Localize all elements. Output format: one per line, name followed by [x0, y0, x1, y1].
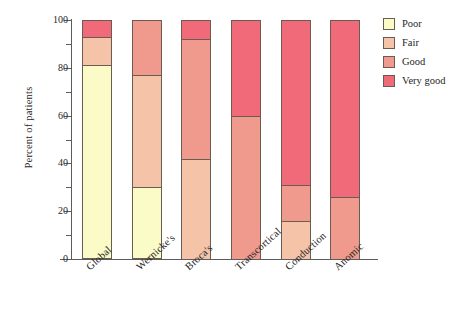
bar-group: [330, 20, 360, 259]
legend-item: Poor: [383, 18, 445, 30]
bar-stack: [281, 20, 311, 259]
legend-label: Fair: [402, 38, 419, 49]
bar-segment-good: [132, 20, 162, 75]
y-tick-label: 80: [28, 63, 68, 73]
y-tick-label: 20: [28, 206, 68, 216]
bar-segment-good: [281, 185, 311, 221]
plot-area: [72, 20, 370, 259]
bar-stack: [132, 20, 162, 259]
legend-label: Good: [402, 57, 425, 68]
bar-segment-very-good: [330, 20, 360, 197]
y-tick-label: 60: [28, 111, 68, 121]
bar-series-container: [72, 20, 370, 259]
legend-label: Poor: [402, 19, 422, 30]
legend-swatch-icon: [383, 56, 395, 68]
bar-segment-very-good: [82, 20, 112, 37]
legend-item: Very good: [383, 75, 445, 87]
bar-segment-very-good: [181, 20, 211, 39]
y-tick-label: 40: [28, 158, 68, 168]
bar-segment-very-good: [281, 20, 311, 185]
chart-legend: PoorFairGoodVery good: [383, 18, 445, 87]
y-tick-label: 0: [28, 254, 68, 264]
legend-swatch-icon: [383, 18, 395, 30]
legend-item: Fair: [383, 37, 445, 49]
legend-label: Very good: [402, 76, 445, 87]
bar-group: [281, 20, 311, 259]
legend-swatch-icon: [383, 75, 395, 87]
x-axis-line: [60, 259, 378, 260]
bar-segment-good: [181, 39, 211, 159]
bar-group: [82, 20, 112, 259]
bar-segment-fair: [82, 37, 112, 66]
bar-segment-good: [231, 116, 261, 259]
bar-segment-very-good: [231, 20, 261, 116]
bar-stack: [82, 20, 112, 259]
legend-swatch-icon: [383, 37, 395, 49]
bar-stack: [330, 20, 360, 259]
bar-group: [132, 20, 162, 259]
legend-item: Good: [383, 56, 445, 68]
y-tick-label: 100: [28, 15, 68, 25]
bar-stack: [181, 20, 211, 259]
bar-segment-poor: [82, 65, 112, 259]
bar-segment-fair: [132, 75, 162, 187]
stacked-bar-chart: Percent of patients 020406080100 GlobalW…: [0, 0, 459, 322]
bar-group: [181, 20, 211, 259]
bar-group: [231, 20, 261, 259]
bar-stack: [231, 20, 261, 259]
